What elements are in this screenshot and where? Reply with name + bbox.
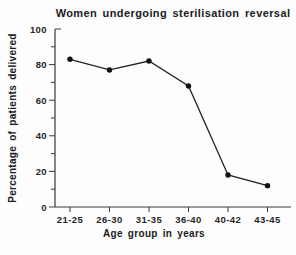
chart-canvas: 02040608010021-2526-3031-3536-4040-4243-… — [0, 0, 296, 255]
data-point — [225, 172, 230, 177]
y-tick-label: 40 — [36, 130, 47, 141]
y-tick-label: 20 — [36, 166, 47, 177]
data-point — [265, 183, 270, 188]
x-tick-label: 26-30 — [96, 214, 122, 225]
x-tick-label: 43-45 — [254, 214, 281, 225]
sterilisation-reversal-figure: Women undergoing sterilisation reversal … — [0, 0, 296, 255]
data-point — [67, 57, 72, 62]
x-tick-label: 31-35 — [136, 214, 163, 225]
y-tick-label: 100 — [30, 24, 47, 35]
x-tick-label: 21-25 — [57, 214, 84, 225]
data-line — [70, 59, 268, 185]
y-tick-label: 0 — [41, 202, 47, 213]
data-point — [107, 67, 112, 72]
data-point — [186, 83, 191, 88]
y-tick-label: 80 — [36, 59, 47, 70]
data-point — [146, 58, 151, 63]
y-tick-label: 60 — [36, 95, 47, 106]
x-tick-label: 36-40 — [175, 214, 201, 225]
x-tick-label: 40-42 — [215, 214, 241, 225]
